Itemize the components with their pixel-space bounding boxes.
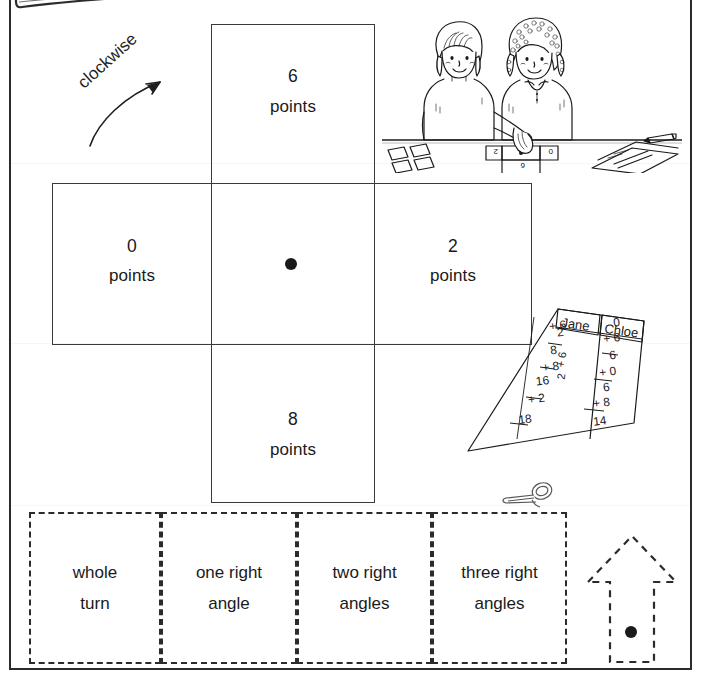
spinner-cell-top-number: 6 — [212, 61, 374, 92]
spinner-cell-right-unit: points — [375, 261, 531, 291]
spinner-cell-left-unit: points — [53, 261, 211, 291]
word-card-whole-turn[interactable]: whole turn — [29, 512, 161, 664]
svg-text:18: 18 — [518, 411, 533, 427]
spinner-cell-left[interactable]: 0 points — [52, 183, 212, 345]
spinner-cell-left-text: 0 points — [53, 231, 211, 291]
two-children-at-table-illustration: 2 0 6 — [382, 8, 682, 173]
spinner-cell-right-number: 2 — [375, 231, 531, 262]
spinner-cell-top-unit: points — [212, 92, 374, 122]
svg-text:2: 2 — [493, 147, 498, 156]
word-card-text: three right angles — [434, 557, 565, 620]
spinner-cell-bottom-text: 8 points — [212, 404, 374, 464]
svg-text:+ 2: + 2 — [527, 391, 546, 407]
svg-text:+ 6: + 6 — [602, 330, 621, 346]
word-card-three-right-angles[interactable]: three right angles — [432, 512, 567, 664]
spinner-cell-top-text: 6 points — [212, 61, 374, 121]
spinner-cell-top[interactable]: 6 points — [211, 24, 375, 184]
score-sheet-illustration: Jane Chloe + 6 2 + 6 2 8 + 8 16 — [462, 305, 662, 465]
svg-text:0: 0 — [548, 147, 553, 156]
word-card-text: two right angles — [299, 557, 430, 620]
word-card-line2: angles — [434, 588, 565, 619]
spinner-pivot-dot — [285, 258, 297, 270]
spinner-cell-bottom[interactable]: 8 points — [211, 344, 375, 503]
spinner-cell-right-text: 2 points — [375, 231, 531, 291]
arrow-pivot-dot — [625, 626, 637, 638]
worksheet-page: 6 points 0 points 2 points 8 points cloc… — [0, 0, 706, 686]
word-card-text: one right angle — [163, 557, 295, 620]
word-card-line1: three right — [434, 557, 565, 588]
dashed-up-arrow-shape[interactable] — [558, 510, 706, 670]
word-card-line1: whole — [31, 557, 159, 588]
spinner-cell-bottom-number: 8 — [212, 404, 374, 435]
word-card-two-right-angles[interactable]: two right angles — [297, 512, 432, 664]
clockwise-arrow-icon — [68, 44, 208, 154]
spinner-cell-bottom-unit: points — [212, 435, 374, 465]
svg-text:+ 8: + 8 — [541, 359, 560, 375]
word-card-line1: two right — [299, 557, 430, 588]
svg-text:14: 14 — [592, 413, 607, 429]
svg-text:16: 16 — [535, 373, 550, 389]
word-card-line1: one right — [163, 557, 295, 588]
word-card-one-right-angle[interactable]: one right angle — [161, 512, 297, 664]
svg-text:+ 0: + 0 — [598, 364, 617, 380]
word-card-line2: angles — [299, 588, 430, 619]
spinner-cell-left-number: 0 — [53, 231, 211, 262]
word-card-line2: turn — [31, 588, 159, 619]
svg-text:6: 6 — [520, 161, 525, 170]
word-card-line2: angle — [163, 588, 295, 619]
word-card-text: whole turn — [31, 557, 159, 620]
clockwise-annotation: clockwise — [68, 44, 208, 154]
svg-text:+ 8: + 8 — [592, 395, 611, 411]
